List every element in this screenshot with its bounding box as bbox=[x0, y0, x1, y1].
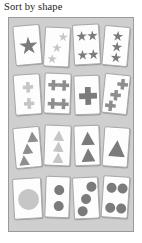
cross-icon bbox=[58, 98, 69, 109]
card-row-triangle bbox=[9, 122, 135, 172]
cross-icon bbox=[79, 87, 98, 106]
cross-icon bbox=[22, 81, 34, 93]
card-circle-1[interactable] bbox=[12, 177, 43, 219]
circle-icon bbox=[77, 206, 88, 217]
star-icon bbox=[47, 54, 58, 65]
card-star-4[interactable] bbox=[101, 25, 130, 67]
card-row-star bbox=[9, 21, 135, 71]
circle-icon bbox=[18, 188, 40, 210]
star-icon bbox=[76, 31, 88, 43]
triangle-icon bbox=[26, 131, 38, 143]
star-icon bbox=[58, 32, 69, 43]
cross-icon bbox=[23, 98, 35, 110]
triangle-icon bbox=[22, 143, 34, 155]
circle-icon bbox=[105, 202, 116, 213]
star-icon bbox=[77, 49, 89, 61]
card-row-circle bbox=[9, 173, 135, 223]
circle-icon bbox=[86, 182, 97, 193]
card-star-1[interactable] bbox=[12, 24, 42, 66]
card-sorting-panel bbox=[8, 17, 134, 232]
star-icon bbox=[112, 30, 124, 42]
cross-icon bbox=[117, 78, 129, 90]
triangle-icon bbox=[18, 154, 30, 166]
card-star-2[interactable] bbox=[43, 26, 71, 67]
sort-by-shape-illustration: Sort by shape bbox=[0, 0, 142, 243]
circle-icon bbox=[54, 184, 64, 194]
star-icon bbox=[87, 30, 99, 42]
circle-icon bbox=[106, 183, 117, 194]
cross-icon bbox=[47, 98, 58, 109]
card-triangle-3[interactable] bbox=[73, 125, 100, 167]
circle-icon bbox=[81, 194, 92, 205]
card-cross-4[interactable] bbox=[101, 73, 131, 115]
circle-icon bbox=[53, 201, 63, 211]
card-circle-4[interactable] bbox=[101, 175, 131, 219]
cross-icon bbox=[48, 79, 59, 90]
card-cross-2[interactable] bbox=[43, 73, 71, 115]
card-triangle-4[interactable] bbox=[102, 126, 131, 168]
card-triangle-2[interactable] bbox=[43, 125, 71, 167]
triangle-icon bbox=[53, 130, 64, 141]
triangle-icon bbox=[53, 141, 64, 152]
star-icon bbox=[110, 52, 122, 64]
cross-icon bbox=[58, 80, 69, 91]
card-circle-2[interactable] bbox=[44, 176, 70, 219]
card-triangle-1[interactable] bbox=[12, 126, 42, 169]
circle-icon bbox=[117, 183, 128, 194]
card-row-cross bbox=[9, 70, 135, 120]
page-title: Sort by shape bbox=[4, 1, 62, 12]
card-cross-1[interactable] bbox=[13, 73, 43, 116]
triangle-icon bbox=[81, 131, 95, 145]
star-icon bbox=[52, 43, 63, 54]
card-cross-3[interactable] bbox=[73, 75, 100, 116]
star-icon bbox=[18, 36, 39, 57]
star-icon bbox=[88, 49, 100, 61]
triangle-icon bbox=[81, 147, 95, 161]
triangle-icon bbox=[52, 152, 63, 163]
cross-icon bbox=[110, 89, 122, 101]
triangle-icon bbox=[108, 139, 126, 157]
cross-icon bbox=[105, 100, 117, 112]
star-icon bbox=[111, 41, 123, 53]
card-star-3[interactable] bbox=[72, 23, 101, 65]
circle-icon bbox=[116, 203, 127, 214]
card-circle-3[interactable] bbox=[72, 176, 100, 219]
